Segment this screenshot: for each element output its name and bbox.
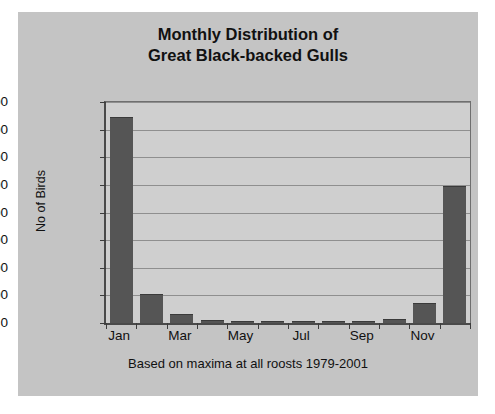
chart-title: Monthly Distribution of Great Black-back…	[18, 24, 478, 66]
x-tick-label: Nov	[388, 328, 458, 343]
y-tick-label: 8000	[0, 205, 8, 220]
bar	[383, 319, 406, 323]
x-tick-mark	[470, 323, 471, 329]
plot-area: 1600014000120001000080006000400020000	[104, 101, 471, 325]
bar	[443, 186, 466, 323]
y-tick-label: 0	[0, 315, 8, 330]
bar	[292, 321, 315, 323]
y-tick-label: 10000	[0, 177, 8, 192]
y-tick-label: 14000	[0, 122, 8, 137]
y-tick-label: 16000	[0, 94, 8, 109]
bar-slot	[379, 102, 409, 323]
bar-slot	[136, 102, 166, 323]
bar	[110, 117, 133, 323]
x-tick-label: Jul	[266, 328, 336, 343]
chart-subtitle: Based on maxima at all roosts 1979-2001	[18, 356, 478, 371]
bar-slot	[440, 102, 470, 323]
y-axis-title: No of Birds	[34, 141, 48, 261]
bar-slot	[349, 102, 379, 323]
chart-frame: Monthly Distribution of Great Black-back…	[18, 12, 478, 396]
bar-slot	[167, 102, 197, 323]
bar-slot	[409, 102, 439, 323]
bar-slot	[227, 102, 257, 323]
y-tick-label: 4000	[0, 260, 8, 275]
bar	[352, 321, 375, 323]
bar-series	[106, 102, 470, 323]
x-tick-label: Mar	[145, 328, 215, 343]
bar	[322, 321, 345, 323]
y-tick-label: 2000	[0, 287, 8, 302]
chart-title-line-2: Great Black-backed Gulls	[18, 45, 478, 66]
bar-slot	[106, 102, 136, 323]
bar	[261, 321, 284, 323]
x-tick-label: Sep	[327, 328, 397, 343]
x-tick-label: May	[206, 328, 276, 343]
bar	[201, 320, 224, 323]
bar-slot	[197, 102, 227, 323]
bar-slot	[288, 102, 318, 323]
bar-slot	[258, 102, 288, 323]
x-tick-label: Jan	[84, 328, 154, 343]
y-tick-label: 6000	[0, 232, 8, 247]
bar-slot	[318, 102, 348, 323]
chart-title-line-1: Monthly Distribution of	[18, 24, 478, 45]
bar	[140, 294, 163, 323]
bar	[170, 314, 193, 323]
y-tick-label: 12000	[0, 149, 8, 164]
bar	[231, 321, 254, 323]
bar	[413, 303, 436, 323]
